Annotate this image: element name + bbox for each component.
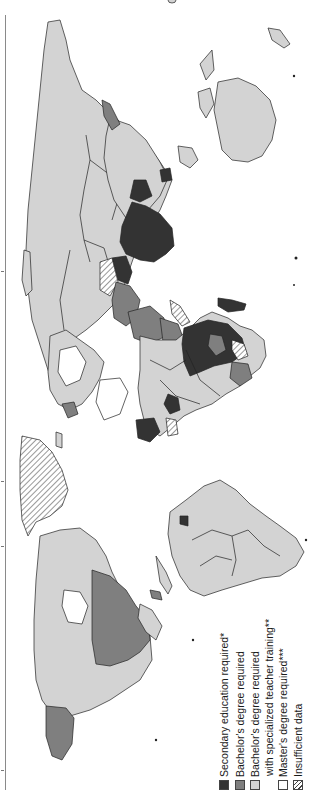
region-indonesia bbox=[198, 88, 214, 118]
region-borneo bbox=[178, 146, 198, 168]
region-guyana-dark bbox=[180, 516, 188, 526]
region-new-zealand bbox=[268, 28, 290, 48]
region-greenland bbox=[20, 436, 68, 536]
region-west-africa-hatch bbox=[166, 418, 178, 436]
region-uk-light bbox=[56, 432, 62, 448]
region-south-america bbox=[168, 480, 304, 596]
region-japan bbox=[200, 50, 214, 80]
region-madagascar bbox=[218, 298, 246, 312]
region-cuba-gray bbox=[150, 590, 162, 600]
region-sri-lanka bbox=[168, 0, 176, 3]
region-australia bbox=[214, 78, 276, 162]
world-map bbox=[0, 0, 318, 807]
region-india bbox=[120, 202, 174, 262]
region-central-america bbox=[156, 556, 172, 594]
region-north-africa-white bbox=[96, 378, 128, 420]
region-arctic-islands bbox=[22, 250, 32, 296]
region-philippines-dark bbox=[160, 168, 172, 182]
region-alaska bbox=[46, 706, 74, 760]
